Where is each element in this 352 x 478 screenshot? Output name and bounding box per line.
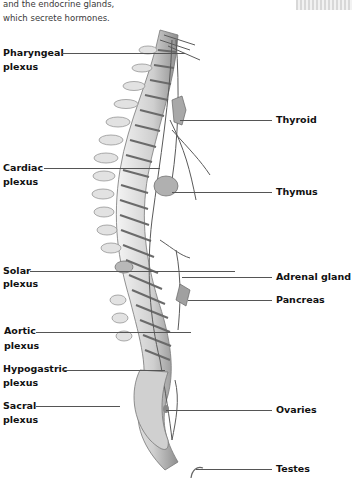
label-ovaries: Ovaries: [276, 404, 317, 416]
leader-adrenal-gland: [182, 277, 272, 278]
label-thymus: Thymus: [276, 186, 318, 198]
leader-sacral: [36, 406, 120, 407]
leader-pharyngeal: [62, 53, 185, 54]
label-sacral-sub: plexus: [3, 414, 38, 426]
label-hypogastric: Hypogastric: [3, 363, 67, 375]
label-aortic: Aortic: [4, 325, 36, 337]
ovary: [163, 405, 169, 413]
leader-ovaries: [166, 410, 272, 411]
label-cardiac-sub: plexus: [3, 176, 38, 188]
thymus-gland: [154, 176, 178, 196]
leader-aortic: [36, 332, 191, 333]
leader-testes: [196, 469, 272, 470]
leader-cardiac: [44, 168, 160, 169]
leader-thyroid: [180, 120, 272, 121]
label-pancreas: Pancreas: [276, 294, 325, 306]
label-adrenal-gland: Adrenal gland: [276, 271, 351, 283]
leader-thymus: [172, 192, 272, 193]
label-hypogastric-sub: plexus: [3, 377, 38, 389]
label-thyroid: Thyroid: [276, 114, 317, 126]
label-aortic-sub: plexus: [4, 340, 39, 352]
label-sacral: Sacral: [3, 400, 36, 412]
label-testes: Testes: [276, 463, 310, 475]
pancreas: [176, 284, 190, 306]
label-solar: Solar: [3, 265, 31, 277]
label-pharyngeal-sub: plexus: [3, 61, 38, 73]
label-solar-sub: plexus: [3, 278, 38, 290]
leader-hypogastric: [63, 370, 165, 371]
label-cardiac: Cardiac: [3, 162, 43, 174]
leader-pancreas: [188, 300, 272, 301]
label-pharyngeal: Pharyngeal: [3, 47, 64, 59]
leader-solar: [30, 271, 235, 272]
